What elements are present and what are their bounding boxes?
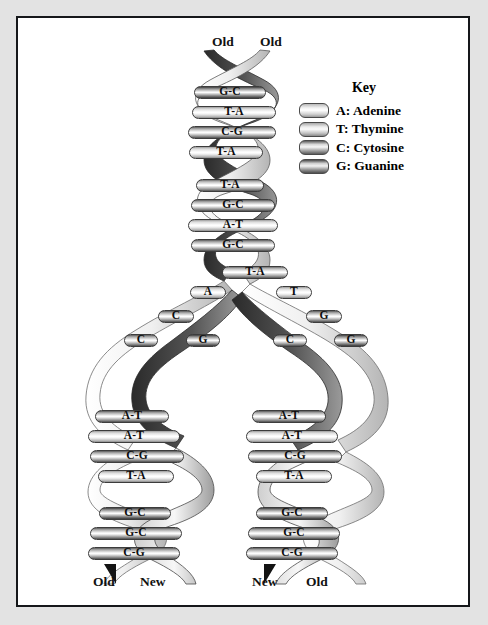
right-daughter-base-pair-0: A-T [252,410,326,423]
key-item-t: T: Thymine [299,121,449,138]
parent-base-pair-label-4: T-A [220,179,239,191]
parent-base-pair-4: T-A [196,179,264,192]
parent-base-pair-label-3: T-A [216,146,235,158]
right-daughter-base-pair-label-5: G-C [283,527,305,539]
left-daughter-base-pair-3: T-A [98,470,174,483]
right-daughter-base-pair-label-3: T-A [284,470,303,482]
fork-right-base-0: T [276,286,312,299]
left-daughter-base-pair-6: C-G [88,547,180,560]
figure-outer-frame: Old Old Old New New Old G-CT-AC-GT-AT-AG… [0,0,488,625]
key-label-t: T: Thymine [336,121,403,137]
fork-right-base-label-0: T [290,286,298,298]
left-daughter-base-pair-0: A-T [95,410,169,423]
left-daughter-base-pair-1: A-T [88,430,180,443]
key-label-a: A: Adenine [336,103,401,119]
fork-right-base-label-3: G [346,334,355,346]
fork-left-base-0: A [190,286,226,299]
parent-base-pair-label-8: T-A [245,266,264,278]
right-daughter-label-new: New [252,574,278,590]
right-daughter-base-pair-label-4: G-C [281,507,303,519]
right-daughter-base-pair-label-2: C-G [284,450,306,462]
left-daughter-base-pair-label-2: C-G [126,450,148,462]
fork-left-base-2: C [124,334,158,347]
parent-label-old-left: Old [212,34,234,50]
right-daughter-label-old: Old [306,574,328,590]
parent-base-pair-8: T-A [222,266,288,279]
parent-base-pair-label-0: G-C [219,86,241,98]
right-daughter-base-pair-6: C-G [246,547,338,560]
right-daughter-base-pair-1: A-T [246,430,338,443]
key-legend: Key A: AdenineT: ThymineC: CytosineG: Gu… [299,80,449,176]
parent-base-pair-2: C-G [188,126,276,139]
fork-left-base-1: C [158,310,194,323]
fork-right-base-2: C [273,334,307,347]
right-daughter-base-pair-label-6: C-G [281,547,303,559]
fork-right-base-label-2: C [286,334,295,346]
key-item-c: C: Cytosine [299,139,449,156]
fork-right-base-1: G [306,310,342,323]
parent-base-pair-7: G-C [191,239,275,252]
fork-left-base-label-2: C [137,334,146,346]
left-daughter-label-old: Old [93,574,115,590]
left-daughter-base-pair-5: G-C [90,527,182,540]
fork-left-base-label-1: C [172,310,181,322]
dna-replication-figure: Old Old Old New New Old G-CT-AC-GT-AT-AG… [18,18,468,605]
left-daughter-base-pair-label-4: G-C [124,507,146,519]
fork-right-base-3: G [334,334,368,347]
key-rows: A: AdenineT: ThymineC: CytosineG: Guanin… [299,102,449,175]
key-swatch-t-icon [299,122,329,137]
fork-left-base-3: G [186,334,220,347]
fork-left-backbone [86,281,242,450]
parent-base-pair-1: T-A [192,106,276,119]
parent-base-pair-0: G-C [194,86,266,99]
parent-base-pair-label-7: G-C [222,239,244,251]
key-title: Key [305,80,423,96]
right-daughter-base-pair-3: T-A [256,470,332,483]
key-swatch-g-icon [299,159,329,174]
parent-base-pair-label-1: T-A [224,106,243,118]
right-daughter-base-pair-4: G-C [256,507,328,520]
fork-left-base-label-3: G [198,334,207,346]
right-daughter-base-pair-2: C-G [248,450,342,463]
right-daughter-base-pair-5: G-C [248,527,340,540]
right-daughter-base-pair-label-0: A-T [279,410,299,422]
parent-base-pair-5: G-C [191,199,275,212]
left-daughter-base-pair-4: G-C [99,507,171,520]
parent-base-pair-6: A-T [188,219,278,232]
left-daughter-base-pair-label-6: C-G [123,547,145,559]
key-item-a: A: Adenine [299,102,449,119]
left-daughter-base-pair-label-5: G-C [125,527,147,539]
left-daughter-base-pair-label-3: T-A [126,470,145,482]
left-daughter-base-pair-2: C-G [90,450,184,463]
key-item-g: G: Guanine [299,158,449,175]
parent-base-pair-label-5: G-C [222,199,244,211]
left-daughter-label-new: New [140,574,166,590]
left-daughter-base-pair-label-1: A-T [124,430,144,442]
key-label-g: G: Guanine [336,158,404,174]
parent-label-old-right: Old [260,34,282,50]
key-swatch-a-icon [299,103,329,118]
key-label-c: C: Cytosine [336,140,404,156]
key-swatch-c-icon [299,140,329,155]
left-daughter-base-pair-label-0: A-T [122,410,142,422]
right-daughter-base-pair-label-1: A-T [282,430,302,442]
parent-base-pair-label-6: A-T [223,219,243,231]
parent-base-pair-label-2: C-G [221,126,243,138]
parent-base-pair-3: T-A [189,146,263,159]
fork-right-base-label-1: G [319,310,328,322]
fork-left-base-label-0: A [204,286,213,298]
